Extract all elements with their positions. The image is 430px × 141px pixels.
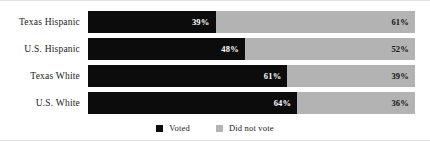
legend-item-voted: Voted (156, 123, 190, 133)
bar-value-voted: 64% (274, 92, 292, 114)
bar-value-did-not-vote: 52% (391, 38, 409, 60)
legend-swatch-icon (156, 125, 163, 132)
bar-value-voted: 61% (264, 65, 282, 87)
legend-swatch-icon (216, 125, 223, 132)
bar-row: U.S. White 64% 36% (0, 92, 430, 114)
chart-legend: Voted Did not vote (0, 119, 430, 137)
bar-segment-did-not-vote: 36% (297, 92, 415, 114)
bar-segment-did-not-vote: 39% (287, 65, 415, 87)
category-label: Texas White (0, 65, 80, 87)
plot-area: Texas Hispanic 39% 61% U.S. Hispanic 48%… (0, 1, 430, 118)
stacked-bar-chart: Texas Hispanic 39% 61% U.S. Hispanic 48%… (0, 0, 430, 141)
category-label: Texas Hispanic (0, 11, 80, 33)
bar-value-voted: 39% (192, 11, 210, 33)
bar-segment-did-not-vote: 61% (216, 11, 415, 33)
bar-row: Texas White 61% 39% (0, 65, 430, 87)
bar-value-did-not-vote: 36% (391, 92, 409, 114)
legend-label: Did not vote (229, 123, 274, 133)
legend-label: Voted (169, 123, 190, 133)
category-label: U.S. White (0, 92, 80, 114)
legend-item-did-not-vote: Did not vote (216, 123, 274, 133)
bar-segment-voted: 39% (88, 11, 216, 33)
stacked-bar-track: 61% 39% (88, 65, 415, 87)
bar-row: Texas Hispanic 39% 61% (0, 11, 430, 33)
bar-segment-did-not-vote: 52% (245, 38, 415, 60)
bar-segment-voted: 61% (88, 65, 287, 87)
category-label: U.S. Hispanic (0, 38, 80, 60)
bar-segment-voted: 64% (88, 92, 297, 114)
bar-segment-voted: 48% (88, 38, 245, 60)
stacked-bar-track: 48% 52% (88, 38, 415, 60)
stacked-bar-track: 39% 61% (88, 11, 415, 33)
bar-value-voted: 48% (221, 38, 239, 60)
bar-value-did-not-vote: 61% (391, 11, 409, 33)
bar-value-did-not-vote: 39% (391, 65, 409, 87)
stacked-bar-track: 64% 36% (88, 92, 415, 114)
bar-row: U.S. Hispanic 48% 52% (0, 38, 430, 60)
